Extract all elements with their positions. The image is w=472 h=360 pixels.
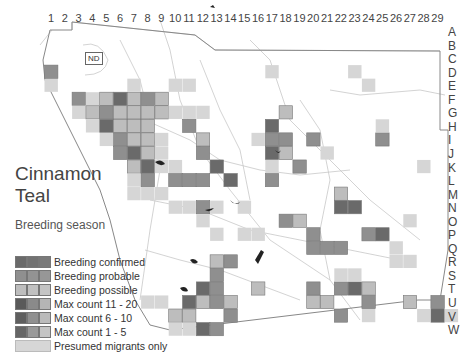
survey-square-probable — [265, 133, 278, 146]
survey-square-migrant — [196, 214, 209, 227]
survey-square-possible — [127, 160, 140, 173]
survey-square-possible — [114, 106, 127, 119]
survey-square-probable — [196, 146, 209, 159]
legend-label: Max count 1 - 5 — [54, 326, 126, 338]
survey-square-migrant — [100, 133, 113, 146]
survey-square-possible — [224, 295, 237, 308]
season-subtitle: Breeding season — [15, 218, 105, 232]
column-label: 13 — [210, 12, 222, 24]
row-label: K — [448, 161, 456, 175]
survey-square-migrant — [169, 201, 182, 214]
survey-square-possible — [279, 106, 292, 119]
survey-square-migrant — [45, 79, 58, 92]
survey-square-migrant — [86, 92, 99, 105]
survey-square-migrant — [252, 228, 265, 241]
row-label: C — [448, 52, 457, 66]
survey-square-confirmed — [265, 119, 278, 132]
survey-square-migrant — [362, 309, 375, 322]
survey-square-probable — [45, 65, 58, 78]
column-label: 29 — [431, 12, 443, 24]
survey-square-confirmed — [210, 160, 223, 173]
column-label: 4 — [89, 12, 95, 24]
survey-square-migrant — [141, 187, 154, 200]
survey-square-possible — [114, 119, 127, 132]
column-label: 17 — [266, 12, 278, 24]
survey-square-migrant — [417, 309, 430, 322]
survey-square-migrant — [196, 106, 209, 119]
survey-square-migrant — [403, 214, 416, 227]
survey-square-migrant — [169, 323, 182, 336]
row-label: J — [448, 147, 454, 161]
survey-square-probable — [114, 146, 127, 159]
row-label: S — [448, 269, 456, 283]
row-label: P — [448, 228, 456, 242]
survey-square-possible — [155, 92, 168, 105]
survey-square-migrant — [86, 119, 99, 132]
row-label: V — [448, 310, 456, 324]
survey-square-possible — [141, 133, 154, 146]
row-label: D — [448, 66, 457, 80]
column-label: 19 — [293, 12, 305, 24]
survey-square-probable — [279, 133, 292, 146]
survey-square-migrant — [183, 79, 196, 92]
survey-square-probable — [307, 133, 320, 146]
column-label: 1 — [48, 12, 54, 24]
survey-square-migrant — [321, 146, 334, 159]
survey-square-confirmed — [431, 309, 444, 322]
survey-square-confirmed — [348, 201, 361, 214]
column-label: 6 — [117, 12, 123, 24]
legend-swatch — [15, 312, 51, 324]
survey-square-confirmed — [114, 92, 127, 105]
row-label: M — [448, 188, 458, 202]
survey-square-migrant — [169, 106, 182, 119]
column-label: 14 — [224, 12, 236, 24]
legend-swatch — [15, 340, 51, 352]
row-label: H — [448, 120, 457, 134]
survey-square-confirmed — [348, 282, 361, 295]
legend-swatch — [15, 326, 51, 338]
survey-square-probable — [362, 228, 375, 241]
legend-item-presumed-migrants: Presumed migrants only — [15, 339, 167, 353]
legend-label: Breeding confirmed — [54, 256, 145, 268]
survey-square-probable — [210, 282, 223, 295]
survey-square-possible — [169, 309, 182, 322]
column-label: 3 — [76, 12, 82, 24]
survey-square-probable — [210, 268, 223, 281]
survey-square-possible — [334, 187, 347, 200]
survey-square-probable — [362, 295, 375, 308]
survey-square-possible — [141, 146, 154, 159]
legend-label: Breeding possible — [54, 284, 137, 296]
survey-square-probable — [210, 295, 223, 308]
survey-square-migrant — [155, 133, 168, 146]
survey-square-migrant — [155, 146, 168, 159]
survey-square-confirmed — [196, 323, 209, 336]
survey-square-possible — [307, 295, 320, 308]
column-label: 25 — [376, 12, 388, 24]
row-label: G — [448, 106, 457, 120]
column-label: 28 — [417, 12, 429, 24]
column-label: 18 — [279, 12, 291, 24]
species-title-line2: Teal — [15, 185, 50, 207]
legend-item-breeding-confirmed: Breeding confirmed — [15, 255, 167, 269]
survey-square-confirmed — [141, 160, 154, 173]
survey-square-possible — [127, 106, 140, 119]
survey-square-migrant — [127, 187, 140, 200]
survey-square-probable — [196, 174, 209, 187]
legend-swatch — [15, 256, 51, 268]
survey-square-probable — [100, 106, 113, 119]
survey-square-probable — [265, 174, 278, 187]
row-label: L — [448, 174, 455, 188]
survey-square-possible — [86, 106, 99, 119]
survey-square-migrant — [403, 255, 416, 268]
row-label: F — [448, 93, 455, 107]
column-label: 15 — [238, 12, 250, 24]
column-label: 21 — [321, 12, 333, 24]
survey-square-possible — [141, 106, 154, 119]
column-label: 2 — [62, 12, 68, 24]
survey-square-possible — [183, 309, 196, 322]
column-label: 10 — [169, 12, 181, 24]
survey-square-migrant — [417, 160, 430, 173]
survey-square-probable — [183, 119, 196, 132]
legend-item-breeding-possible: Breeding possible — [15, 283, 167, 297]
survey-square-migrant — [183, 323, 196, 336]
